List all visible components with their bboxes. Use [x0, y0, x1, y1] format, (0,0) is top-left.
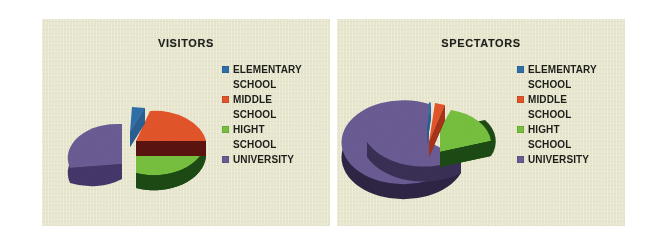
- pie-chart-spectators: [341, 61, 513, 211]
- legend-sublabel-high: SCHOOL: [222, 137, 326, 152]
- legend-spectators: ELEMENTARY SCHOOL MIDDLE SCHOOL HIGHT SC…: [517, 62, 621, 167]
- legend-visitors: ELEMENTARY SCHOOL MIDDLE SCHOOL HIGHT SC…: [222, 62, 326, 167]
- pie-chart-visitors: [46, 61, 218, 211]
- legend-row: MIDDLE: [222, 92, 326, 107]
- pie-svg-spectators: [341, 61, 513, 211]
- legend-row: HIGHT: [222, 122, 326, 137]
- legend-label-high: HIGHT: [528, 125, 560, 135]
- legend-label-elementary: ELEMENTARY: [233, 65, 302, 75]
- legend-swatch-high-icon: [517, 126, 524, 133]
- legend-label-middle: MIDDLE: [233, 95, 272, 105]
- scanned-figure: VISITORS: [0, 0, 654, 245]
- legend-item-middle-visitors[interactable]: MIDDLE SCHOOL: [222, 92, 326, 122]
- page-title-spectators: SPECTATORS: [337, 37, 625, 49]
- legend-item-elementary-spectators[interactable]: ELEMENTARY SCHOOL: [517, 62, 621, 92]
- legend-item-elementary-visitors[interactable]: ELEMENTARY SCHOOL: [222, 62, 326, 92]
- legend-swatch-middle-icon: [517, 96, 524, 103]
- legend-row: HIGHT: [517, 122, 621, 137]
- slice-university-visitors[interactable]: [68, 124, 122, 186]
- legend-sublabel-middle: SCHOOL: [222, 107, 326, 122]
- pie-svg-visitors: [46, 61, 218, 211]
- chart-panel-visitors: VISITORS: [42, 19, 330, 226]
- legend-swatch-elementary-icon: [222, 66, 229, 73]
- legend-item-university-spectators[interactable]: UNIVERSITY: [517, 152, 621, 167]
- legend-sublabel-elementary: SCHOOL: [222, 77, 326, 92]
- legend-swatch-university-icon: [222, 156, 229, 163]
- legend-sublabel-high: SCHOOL: [517, 137, 621, 152]
- legend-row: MIDDLE: [517, 92, 621, 107]
- chart-panel-spectators: SPECTATORS: [337, 19, 625, 226]
- legend-item-high-visitors[interactable]: HIGHT SCHOOL: [222, 122, 326, 152]
- slice-middle-school-visitors[interactable]: [136, 111, 206, 156]
- legend-row: UNIVERSITY: [517, 152, 621, 167]
- legend-item-high-spectators[interactable]: HIGHT SCHOOL: [517, 122, 621, 152]
- legend-label-high: HIGHT: [233, 125, 265, 135]
- slice-high-school-spectators[interactable]: [440, 110, 496, 167]
- legend-sublabel-elementary: SCHOOL: [517, 77, 621, 92]
- legend-item-middle-spectators[interactable]: MIDDLE SCHOOL: [517, 92, 621, 122]
- legend-label-university: UNIVERSITY: [528, 155, 589, 165]
- legend-swatch-high-icon: [222, 126, 229, 133]
- legend-label-middle: MIDDLE: [528, 95, 567, 105]
- legend-item-university-visitors[interactable]: UNIVERSITY: [222, 152, 326, 167]
- legend-swatch-middle-icon: [222, 96, 229, 103]
- legend-swatch-university-icon: [517, 156, 524, 163]
- legend-label-elementary: ELEMENTARY: [528, 65, 597, 75]
- legend-label-university: UNIVERSITY: [233, 155, 294, 165]
- legend-row: ELEMENTARY: [517, 62, 621, 77]
- legend-row: ELEMENTARY: [222, 62, 326, 77]
- legend-swatch-elementary-icon: [517, 66, 524, 73]
- legend-row: UNIVERSITY: [222, 152, 326, 167]
- legend-sublabel-middle: SCHOOL: [517, 107, 621, 122]
- page-title-visitors: VISITORS: [42, 37, 330, 49]
